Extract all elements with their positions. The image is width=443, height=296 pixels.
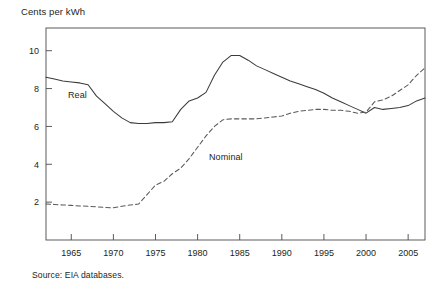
series-label-real: Real: [68, 90, 87, 100]
y-axis-title: Cents per kWh: [21, 6, 85, 17]
axis-ticks: [46, 51, 408, 240]
svg-text:1980: 1980: [188, 248, 208, 258]
svg-text:10: 10: [29, 46, 39, 56]
data-series-group: [46, 55, 425, 207]
svg-text:1975: 1975: [145, 248, 165, 258]
svg-text:2: 2: [34, 197, 39, 207]
svg-text:1965: 1965: [61, 248, 81, 258]
line-chart-plot: 2468101965197019751980198519901995200020…: [0, 0, 443, 296]
chart-figure: Cents per kWh 24681019651970197519801985…: [0, 0, 443, 296]
svg-text:1985: 1985: [230, 248, 250, 258]
svg-text:6: 6: [34, 122, 39, 132]
svg-text:4: 4: [34, 160, 39, 170]
plot-frame: [46, 28, 425, 240]
svg-text:2000: 2000: [356, 248, 376, 258]
svg-text:1990: 1990: [272, 248, 292, 258]
svg-text:2005: 2005: [398, 248, 418, 258]
svg-text:8: 8: [34, 84, 39, 94]
svg-text:1995: 1995: [314, 248, 334, 258]
source-note: Source: EIA databases.: [32, 270, 124, 280]
svg-text:1970: 1970: [103, 248, 123, 258]
series-label-nominal: Nominal: [209, 152, 243, 162]
